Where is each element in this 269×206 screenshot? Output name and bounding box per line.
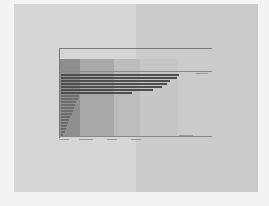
bar: [61, 125, 67, 127]
x-label-4: [131, 139, 141, 140]
bar: [61, 95, 79, 97]
bar-chart: [59, 47, 212, 142]
bar: [61, 74, 179, 76]
x-label-2: [79, 139, 93, 140]
x-axis-bottom: [59, 136, 212, 137]
x-label-1: [59, 139, 69, 140]
bar: [61, 110, 73, 112]
x-label-3: [107, 139, 117, 140]
bar: [61, 122, 68, 124]
legend-top: [196, 73, 208, 74]
bar: [61, 83, 167, 85]
bar: [61, 101, 76, 103]
bar: [61, 92, 132, 94]
bar: [61, 131, 65, 133]
bar: [61, 128, 66, 130]
bar: [61, 116, 70, 118]
bar: [61, 107, 74, 109]
bar: [61, 113, 72, 115]
bar: [61, 80, 170, 82]
legend-bottom: [179, 135, 193, 136]
bar: [61, 77, 177, 79]
bar: [61, 89, 153, 91]
bar: [61, 104, 75, 106]
bar: [61, 86, 162, 88]
bar: [61, 98, 78, 100]
bar: [61, 119, 69, 121]
x-axis-top: [59, 71, 212, 72]
chart-top-border: [59, 48, 212, 49]
